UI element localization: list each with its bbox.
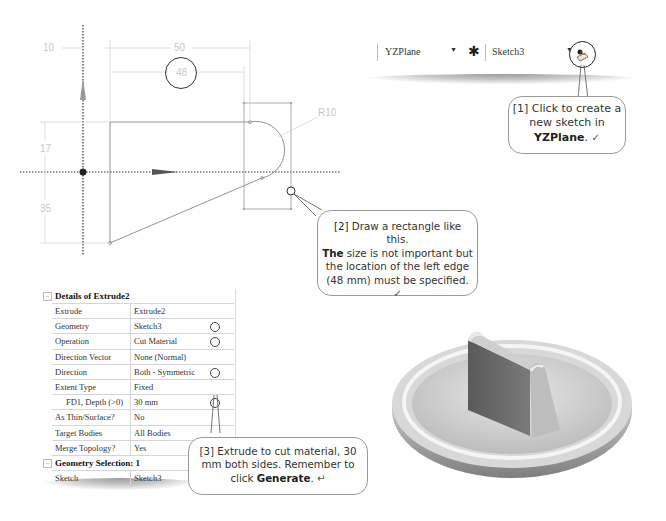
- marker-circle: [210, 322, 220, 332]
- details-row[interactable]: ExtrudeExtrude2: [52, 303, 234, 318]
- new-sketch-icon: [570, 42, 595, 67]
- details-row[interactable]: GeometrySketch3: [52, 318, 234, 333]
- collapse-icon[interactable]: –: [43, 459, 52, 468]
- x-axis-arrow-icon: [152, 169, 178, 175]
- chevron-down-icon: ▼: [450, 46, 457, 54]
- dimension-50: 50: [174, 42, 186, 53]
- dimension-48: 48: [176, 67, 188, 78]
- axis-icon[interactable]: ✱: [468, 44, 480, 60]
- dimension-10: 10: [43, 42, 55, 53]
- details-row[interactable]: DirectionBoth - Symmetric: [52, 364, 234, 379]
- dimension-r10: R10: [318, 107, 337, 118]
- details-group-header[interactable]: – Details of Extrude2: [52, 289, 234, 303]
- marker-circle: [210, 368, 220, 378]
- model-viewport[interactable]: [390, 318, 640, 480]
- plane-dropdown-value: YZPlane: [385, 46, 421, 57]
- callout-step-1: [1] Click to create a new sketch in YZPl…: [508, 96, 626, 154]
- details-row[interactable]: Direction VectorNone (Normal): [52, 349, 234, 364]
- dimension-17: 17: [40, 143, 52, 154]
- origin-point: [80, 169, 87, 176]
- callout-step-3: [3] Extrude to cut material, 30 mm both …: [188, 437, 368, 495]
- sketch-dropdown-value: Sketch3: [492, 46, 524, 57]
- details-row[interactable]: Extent TypeFixed: [52, 379, 234, 394]
- collapse-icon[interactable]: –: [43, 292, 52, 301]
- y-axis-arrow-icon: [80, 78, 86, 100]
- callout-step-2: [2] Draw a rectangle like this. The size…: [317, 210, 478, 296]
- check-icon: ✓: [592, 132, 600, 143]
- sketch-dropdown[interactable]: Sketch3 ▼: [492, 46, 572, 60]
- new-sketch-button[interactable]: [569, 41, 596, 68]
- details-row[interactable]: FD1, Depth (>0)30 mm: [52, 394, 234, 409]
- sketch-toolbar: YZPlane ▼ ✱ Sketch3 ▼: [372, 42, 572, 64]
- dimension-35: 35: [40, 203, 52, 214]
- enter-icon: ↵: [317, 472, 326, 484]
- sketch-canvas[interactable]: 10 50 48 R10 17 35: [0, 0, 360, 260]
- plane-dropdown[interactable]: YZPlane ▼: [385, 46, 465, 60]
- check-icon: ✓: [393, 287, 402, 299]
- details-row[interactable]: OperationCut Material: [52, 333, 234, 348]
- marker-circle: [210, 337, 220, 347]
- details-row[interactable]: As Thin/Surface?No: [52, 409, 234, 424]
